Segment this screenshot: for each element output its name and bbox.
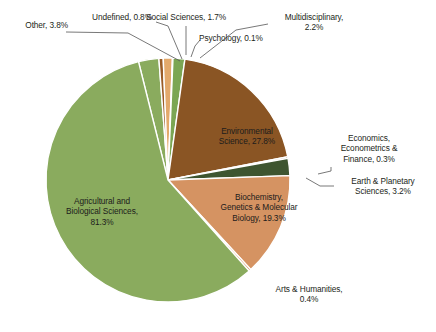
pie-chart bbox=[0, 0, 436, 332]
label-social-sciences: Social Sciences, 1.7% bbox=[131, 12, 241, 22]
leader-line-earth-planetary bbox=[306, 178, 334, 186]
label-psychology: Psychology, 0.1% bbox=[199, 33, 295, 43]
label-multidisciplinary: Multidisciplinary, 2.2% bbox=[266, 12, 362, 33]
label-biochemistry: Biochemistry, Genetics & Molecular Biolo… bbox=[196, 192, 322, 223]
leader-line-economics bbox=[318, 167, 331, 174]
label-earth-planetary: Earth & Planetary Sciences, 3.2% bbox=[333, 176, 433, 197]
label-arts-humanities: Arts & Humanities, 0.4% bbox=[253, 284, 365, 305]
leader-line-undefined bbox=[156, 22, 182, 59]
chart-canvas: Other, 3.8% Undefined, 0.8% Social Scien… bbox=[0, 0, 436, 332]
label-environmental-science: Environmental Science, 27.8% bbox=[203, 126, 291, 147]
label-agricultural: Agricultural and Biological Sciences, 81… bbox=[41, 196, 163, 227]
leader-line-other bbox=[66, 32, 180, 61]
label-economics: Economics, Econometrics & Finance, 0.3% bbox=[320, 133, 418, 164]
pie-slice-group bbox=[46, 58, 290, 302]
label-other: Other, 3.8% bbox=[6, 20, 68, 30]
